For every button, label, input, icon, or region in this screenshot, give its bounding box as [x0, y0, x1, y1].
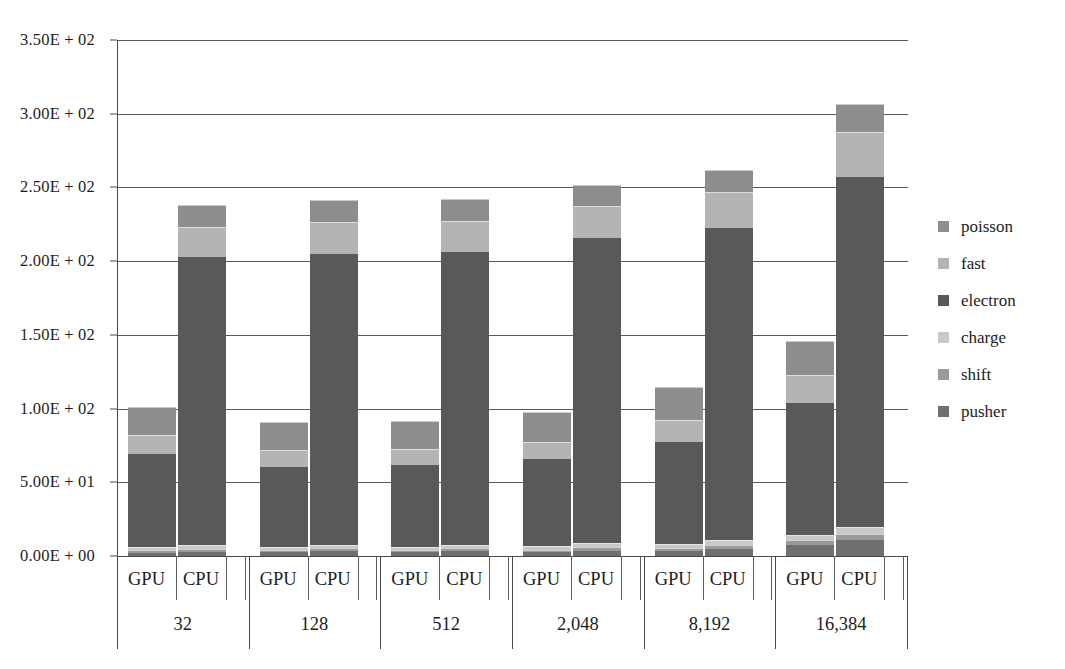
bar-cpu-16384 — [836, 104, 884, 556]
x-axis-sub-divider — [903, 556, 904, 600]
bar-segment-electron — [705, 227, 753, 540]
bar-gpu-512 — [391, 421, 439, 556]
x-axis-sublabel-gpu: GPU — [775, 559, 834, 599]
legend-item-charge[interactable]: charge — [938, 319, 1065, 356]
bar-segment-pusher — [836, 540, 884, 556]
x-axis: GPUCPU32GPUCPU128GPUCPU512GPUCPU2,048GPU… — [117, 556, 907, 649]
x-axis-sub-divider — [226, 556, 227, 600]
y-axis: 0.00E + 005.00E + 011.00E + 021.50E + 02… — [0, 0, 106, 669]
bar-segment-shift — [441, 548, 489, 551]
bar-gpu-16384 — [786, 341, 834, 556]
y-axis-tick-mark — [110, 408, 117, 409]
bar-segment-poisson — [310, 200, 358, 222]
x-axis-sub-divider — [884, 556, 885, 600]
bar-segment-fast — [573, 206, 621, 237]
y-axis-tick-label: 1.50E + 02 — [20, 325, 95, 345]
legend-label: charge — [961, 328, 1006, 348]
gridline — [118, 335, 908, 336]
bar-segment-shift — [178, 549, 226, 552]
gridline — [118, 40, 908, 41]
bar-segment-poisson — [786, 341, 834, 375]
bar-segment-charge — [128, 547, 176, 550]
bar-segment-electron — [836, 176, 884, 527]
x-axis-group-label: 128 — [249, 602, 381, 647]
x-axis-sublabel-gpu: GPU — [644, 559, 703, 599]
legend-item-shift[interactable]: shift — [938, 356, 1065, 393]
bar-segment-fast — [260, 450, 308, 465]
x-axis-sub-divider — [640, 556, 641, 600]
legend-swatch-icon — [938, 295, 949, 306]
bar-gpu-2048 — [523, 412, 571, 556]
bar-segment-fast — [836, 132, 884, 176]
bar-gpu-128 — [260, 422, 308, 556]
bar-segment-electron — [573, 237, 621, 544]
x-axis-sub-divider — [489, 556, 490, 600]
x-axis-sublabel-cpu: CPU — [571, 559, 621, 599]
bar-segment-poisson — [655, 387, 703, 420]
y-axis-tick-label: 3.50E + 02 — [20, 30, 95, 50]
y-axis-tick-mark — [110, 40, 117, 41]
x-axis-group-divider — [907, 556, 908, 649]
bar-cpu-2048 — [573, 185, 621, 556]
bar-segment-electron — [786, 402, 834, 535]
y-axis-tick-mark — [110, 113, 117, 114]
bar-segment-poisson — [391, 421, 439, 449]
legend-swatch-icon — [938, 369, 949, 380]
legend-item-pusher[interactable]: pusher — [938, 393, 1065, 430]
bar-segment-shift — [128, 550, 176, 552]
stacked-bar-chart: 0.00E + 005.00E + 011.00E + 021.50E + 02… — [0, 0, 1065, 669]
bar-segment-poisson — [178, 205, 226, 227]
x-axis-sublabel-gpu: GPU — [380, 559, 439, 599]
bar-segment-shift — [573, 547, 621, 550]
x-axis-sublabel-cpu: CPU — [176, 559, 226, 599]
bar-segment-electron — [260, 466, 308, 547]
bar-segment-charge — [391, 547, 439, 550]
bar-segment-shift — [260, 550, 308, 553]
plot-area — [117, 40, 908, 556]
bar-segment-fast — [391, 449, 439, 464]
y-axis-tick-mark — [110, 482, 117, 483]
bar-segment-fast — [655, 420, 703, 441]
x-axis-group-label: 32 — [117, 602, 249, 647]
x-axis-sublabel-gpu: GPU — [512, 559, 571, 599]
bar-cpu-8192 — [705, 170, 753, 556]
bar-segment-poisson — [573, 185, 621, 206]
bar-segment-charge — [573, 543, 621, 547]
bar-segment-fast — [705, 192, 753, 227]
bar-segment-shift — [786, 540, 834, 545]
chart-legend: poissonfastelectronchargeshiftpusher — [938, 208, 1065, 430]
x-axis-sublabel-gpu: GPU — [249, 559, 308, 599]
bar-cpu-128 — [310, 200, 358, 556]
bar-segment-fast — [128, 435, 176, 453]
x-axis-sub-divider — [508, 556, 509, 600]
legend-item-electron[interactable]: electron — [938, 282, 1065, 319]
bar-segment-shift — [391, 550, 439, 553]
x-axis-sublabel-cpu: CPU — [834, 559, 884, 599]
bar-segment-poisson — [260, 422, 308, 450]
bar-segment-electron — [391, 464, 439, 547]
bar-segment-shift — [310, 548, 358, 551]
bar-cpu-32 — [178, 205, 226, 556]
legend-item-poisson[interactable]: poisson — [938, 208, 1065, 245]
legend-swatch-icon — [938, 221, 949, 232]
bar-segment-charge — [655, 544, 703, 548]
x-axis-group-label: 512 — [380, 602, 512, 647]
x-axis-sub-divider — [771, 556, 772, 600]
legend-swatch-icon — [938, 258, 949, 269]
x-axis-sub-divider — [245, 556, 246, 600]
gridline — [118, 187, 908, 188]
x-axis-sub-divider — [621, 556, 622, 600]
legend-item-fast[interactable]: fast — [938, 245, 1065, 282]
bar-segment-fast — [178, 227, 226, 256]
x-axis-sub-divider — [376, 556, 377, 600]
bar-segment-poisson — [441, 199, 489, 221]
bar-segment-poisson — [523, 412, 571, 441]
bar-gpu-32 — [128, 407, 176, 556]
y-axis-tick-label: 5.00E + 01 — [20, 472, 95, 492]
bar-segment-fast — [310, 222, 358, 252]
y-axis-tick-label: 2.00E + 02 — [20, 251, 95, 271]
bar-segment-fast — [786, 375, 834, 402]
bar-segment-poisson — [836, 104, 884, 132]
legend-label: pusher — [961, 402, 1006, 422]
bar-segment-fast — [523, 442, 571, 458]
